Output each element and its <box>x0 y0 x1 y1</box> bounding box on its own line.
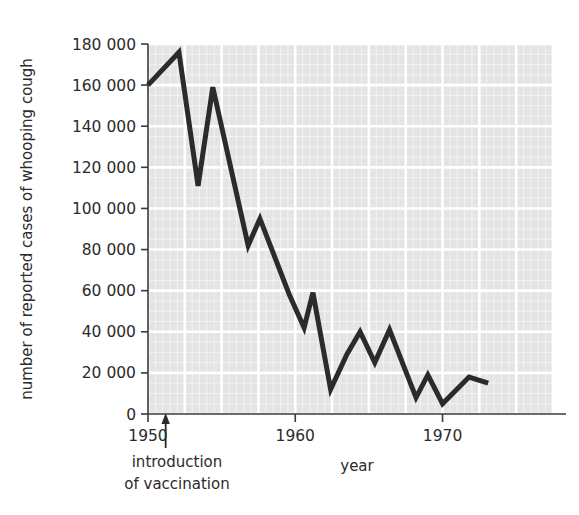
y-tick-label: 180 000 <box>72 36 136 54</box>
y-tick-label: 0 <box>126 406 136 424</box>
x-axis-title: year <box>340 457 374 475</box>
y-axis-title: number of reported cases of whooping cou… <box>18 58 36 400</box>
y-tick-label: 80 000 <box>82 241 136 259</box>
y-tick-label: 140 000 <box>72 118 136 136</box>
x-tick-label: 1970 <box>423 427 462 445</box>
y-tick-label: 100 000 <box>72 200 136 218</box>
x-tick-label: 1950 <box>128 427 167 445</box>
whooping-cough-line-chart: 020 00040 00060 00080 000100 000120 0001… <box>0 0 579 515</box>
y-tick-label: 120 000 <box>72 159 136 177</box>
annotation-line-1: introduction <box>132 453 223 471</box>
y-tick-label: 160 000 <box>72 77 136 95</box>
annotation-line-2: of vaccination <box>124 475 229 493</box>
x-tick-label: 1960 <box>276 427 315 445</box>
y-tick-label: 40 000 <box>82 323 136 341</box>
y-tick-label: 20 000 <box>82 364 136 382</box>
chart-figure: 020 00040 00060 00080 000100 000120 0001… <box>0 0 579 515</box>
y-tick-label: 60 000 <box>82 282 136 300</box>
